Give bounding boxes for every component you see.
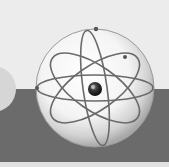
- nucleus: [88, 82, 102, 96]
- atom-icon: [0, 0, 169, 167]
